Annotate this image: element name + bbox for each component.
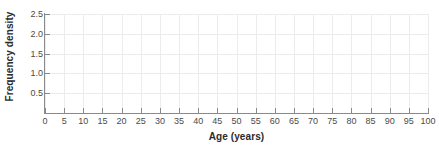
y-axis-tick-label: 2.0 xyxy=(30,29,43,39)
x-axis-tick xyxy=(45,108,46,113)
x-axis-tick xyxy=(141,108,142,113)
gridline-vertical xyxy=(275,14,276,113)
x-axis-tick-label: 55 xyxy=(251,116,261,126)
x-axis-tick xyxy=(275,108,276,113)
gridline-horizontal xyxy=(45,54,428,55)
gridline-vertical xyxy=(371,14,372,113)
x-axis-tick-label: 15 xyxy=(97,116,107,126)
gridline-vertical xyxy=(332,14,333,113)
y-axis-tick-label: 2.5 xyxy=(30,9,43,19)
gridline-horizontal xyxy=(45,34,428,35)
gridline-vertical xyxy=(83,14,84,113)
x-axis-title: Age (years) xyxy=(45,131,428,142)
x-axis-tick xyxy=(179,108,180,113)
x-axis-tick-label: 50 xyxy=(231,116,241,126)
x-axis-tick-label: 75 xyxy=(327,116,337,126)
gridline-vertical xyxy=(409,14,410,113)
x-axis-tick-label: 45 xyxy=(212,116,222,126)
x-axis-tick xyxy=(371,108,372,113)
x-axis-tick-label: 0 xyxy=(42,116,47,126)
x-axis-tick xyxy=(102,108,103,113)
gridline-vertical xyxy=(351,14,352,113)
x-axis-tick xyxy=(83,108,84,113)
gridline-vertical xyxy=(64,14,65,113)
x-axis-tick-label: 30 xyxy=(155,116,165,126)
x-axis-tick xyxy=(409,108,410,113)
x-axis-tick-label: 25 xyxy=(136,116,146,126)
y-axis-title: Frequency density xyxy=(0,0,18,113)
x-axis-tick-label: 85 xyxy=(366,116,376,126)
gridline-vertical xyxy=(390,14,391,113)
y-axis-tick xyxy=(45,34,50,35)
x-axis-tick-label: 80 xyxy=(346,116,356,126)
x-axis-tick xyxy=(256,108,257,113)
x-axis-tick xyxy=(122,108,123,113)
gridline-vertical xyxy=(198,14,199,113)
x-axis-tick-label: 90 xyxy=(385,116,395,126)
y-axis-tick-label: 1.0 xyxy=(30,68,43,78)
x-axis-tick xyxy=(428,108,429,113)
gridline-vertical xyxy=(237,14,238,113)
x-axis-tick xyxy=(64,108,65,113)
y-axis-tick xyxy=(45,73,50,74)
x-axis-tick xyxy=(217,108,218,113)
x-axis-tick xyxy=(198,108,199,113)
gridline-horizontal xyxy=(45,14,428,15)
gridline-vertical xyxy=(428,14,429,113)
y-axis-line xyxy=(44,13,45,114)
x-axis-tick xyxy=(351,108,352,113)
gridline-vertical xyxy=(141,14,142,113)
gridline-vertical xyxy=(160,14,161,113)
gridline-vertical xyxy=(294,14,295,113)
x-axis-tick-label: 100 xyxy=(420,116,435,126)
gridline-horizontal xyxy=(45,93,428,94)
y-axis-tick xyxy=(45,54,50,55)
y-axis-title-text: Frequency density xyxy=(4,11,15,101)
frequency-density-chart: Frequency density Age (years) 0510152025… xyxy=(0,0,439,151)
gridline-vertical xyxy=(313,14,314,113)
gridline-horizontal xyxy=(45,73,428,74)
x-axis-tick-label: 5 xyxy=(62,116,67,126)
gridline-vertical xyxy=(122,14,123,113)
gridline-vertical xyxy=(256,14,257,113)
y-axis-tick xyxy=(45,93,50,94)
x-axis-tick xyxy=(294,108,295,113)
x-axis-tick-label: 70 xyxy=(308,116,318,126)
plot-area xyxy=(45,14,428,113)
y-axis-tick-label: 1.5 xyxy=(30,49,43,59)
x-axis-tick xyxy=(313,108,314,113)
x-axis-tick-label: 10 xyxy=(78,116,88,126)
x-axis-tick-label: 95 xyxy=(404,116,414,126)
gridline-vertical xyxy=(217,14,218,113)
x-axis-tick-label: 35 xyxy=(174,116,184,126)
x-axis-tick xyxy=(160,108,161,113)
x-axis-tick-label: 40 xyxy=(193,116,203,126)
x-axis-tick xyxy=(390,108,391,113)
y-axis-tick-label: 0.5 xyxy=(30,88,43,98)
x-axis-tick xyxy=(237,108,238,113)
gridline-vertical xyxy=(179,14,180,113)
x-axis-tick-label: 60 xyxy=(270,116,280,126)
y-axis-tick xyxy=(45,14,50,15)
x-axis-tick xyxy=(332,108,333,113)
x-axis-tick-label: 20 xyxy=(117,116,127,126)
x-axis-tick-label: 65 xyxy=(289,116,299,126)
gridline-vertical xyxy=(102,14,103,113)
